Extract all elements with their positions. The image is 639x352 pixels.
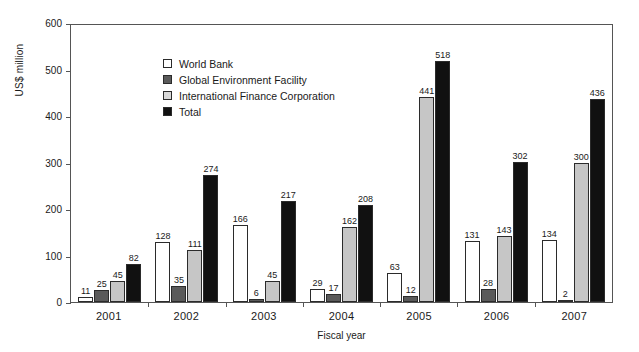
bar-slot: 441 xyxy=(419,86,434,302)
bar-value-label: 441 xyxy=(419,86,434,96)
bar-slot: 45 xyxy=(265,270,280,302)
bar-group-bars: 13128143302 xyxy=(457,25,534,302)
bar-value-label: 63 xyxy=(390,262,400,272)
x-axis-title: Fiscal year xyxy=(70,330,613,341)
bar-group-bars: 11254582 xyxy=(71,25,148,302)
bar[interactable] xyxy=(203,175,218,302)
bar-value-label: 162 xyxy=(342,216,357,226)
bar[interactable] xyxy=(249,299,264,302)
bar[interactable] xyxy=(265,281,280,302)
bar[interactable] xyxy=(326,294,341,302)
legend-label: Global Environment Facility xyxy=(179,74,307,86)
bar[interactable] xyxy=(94,290,109,302)
bar[interactable] xyxy=(513,162,528,302)
bar-group: 13128143302 xyxy=(457,25,534,302)
bar-chart: US$ million 0100200300400500600 11254582… xyxy=(0,0,639,352)
bar-slot: 11 xyxy=(78,286,93,302)
bar-value-label: 436 xyxy=(590,88,605,98)
x-axis-tick-labels: 2001200220032004200520062007 xyxy=(70,310,613,322)
y-tick-label: 100 xyxy=(45,251,62,262)
bar-slot: 12 xyxy=(403,285,418,302)
x-tick-label: 2001 xyxy=(70,310,148,322)
bar-slot: 35 xyxy=(171,275,186,302)
legend-swatch-icon xyxy=(163,107,172,116)
bar[interactable] xyxy=(310,289,325,302)
x-tick-label: 2003 xyxy=(225,310,303,322)
bar[interactable] xyxy=(342,227,357,302)
bar[interactable] xyxy=(126,264,141,302)
bar[interactable] xyxy=(419,97,434,302)
x-tick-mark xyxy=(226,302,227,307)
bar-slot: 518 xyxy=(435,50,450,302)
bar[interactable] xyxy=(387,273,402,302)
bar-value-label: 29 xyxy=(312,278,322,288)
y-axis-title: US$ million xyxy=(14,10,25,130)
legend-item[interactable]: International Finance Corporation xyxy=(163,88,335,103)
x-tick-mark xyxy=(457,302,458,307)
bar[interactable] xyxy=(558,300,573,302)
x-tick-label: 2007 xyxy=(535,310,613,322)
bar-value-label: 518 xyxy=(435,50,450,60)
x-tick-mark xyxy=(148,302,149,307)
bar[interactable] xyxy=(281,201,296,302)
bar-value-label: 6 xyxy=(254,288,259,298)
legend-swatch-icon xyxy=(163,59,172,68)
bar-value-label: 45 xyxy=(267,270,277,280)
bar-value-label: 82 xyxy=(129,253,139,263)
bar-value-label: 208 xyxy=(358,194,373,204)
bar-slot: 302 xyxy=(513,151,528,302)
legend-item[interactable]: World Bank xyxy=(163,56,335,71)
bar-slot: 436 xyxy=(590,88,605,302)
bar[interactable] xyxy=(465,241,480,302)
bar[interactable] xyxy=(574,163,589,303)
x-tick-label: 2005 xyxy=(380,310,458,322)
bar[interactable] xyxy=(187,250,202,302)
plot-area: 0100200300400500600 11254582128351112741… xyxy=(70,24,613,303)
bar-value-label: 25 xyxy=(97,279,107,289)
x-tick-mark xyxy=(303,302,304,307)
bar-slot: 29 xyxy=(310,278,325,302)
bar-slot: 217 xyxy=(281,190,296,302)
x-tick-mark xyxy=(380,302,381,307)
x-tick-label: 2006 xyxy=(458,310,536,322)
bar[interactable] xyxy=(590,99,605,302)
bar-value-label: 134 xyxy=(542,229,557,239)
y-tick-label: 600 xyxy=(45,18,62,29)
bar[interactable] xyxy=(233,225,248,302)
bar-group-bars: 6312441518 xyxy=(380,25,457,302)
bar-slot: 300 xyxy=(574,152,589,303)
bar-value-label: 143 xyxy=(497,225,512,235)
bar-slot: 111 xyxy=(187,239,202,302)
bar-slot: 82 xyxy=(126,253,141,302)
bar-slot: 2 xyxy=(558,289,573,302)
bar-slot: 131 xyxy=(465,230,480,302)
legend-swatch-icon xyxy=(163,91,172,100)
bar[interactable] xyxy=(542,240,557,302)
bar[interactable] xyxy=(78,297,93,302)
bar-value-label: 128 xyxy=(155,231,170,241)
bar[interactable] xyxy=(171,286,186,302)
legend-item[interactable]: Global Environment Facility xyxy=(163,72,335,87)
y-tick-label: 400 xyxy=(45,111,62,122)
legend-item[interactable]: Total xyxy=(163,104,335,119)
bar-group: 6312441518 xyxy=(380,25,457,302)
bar[interactable] xyxy=(481,289,496,302)
bar-slot: 28 xyxy=(481,278,496,302)
bar-slot: 134 xyxy=(542,229,557,302)
bar[interactable] xyxy=(403,296,418,302)
bar[interactable] xyxy=(155,242,170,302)
bar[interactable] xyxy=(358,205,373,302)
bar[interactable] xyxy=(435,61,450,302)
legend-label: World Bank xyxy=(179,58,233,70)
legend-swatch-icon xyxy=(163,75,172,84)
bar-slot: 162 xyxy=(342,216,357,302)
bar-value-label: 300 xyxy=(574,152,589,162)
bar[interactable] xyxy=(110,281,125,302)
bar-group-bars: 1342300436 xyxy=(535,25,612,302)
bar-value-label: 111 xyxy=(188,239,202,249)
x-tick-mark xyxy=(535,302,536,307)
bar-slot: 45 xyxy=(110,270,125,302)
bar-slot: 208 xyxy=(358,194,373,302)
bar[interactable] xyxy=(497,236,512,302)
bar-slot: 166 xyxy=(233,214,248,302)
